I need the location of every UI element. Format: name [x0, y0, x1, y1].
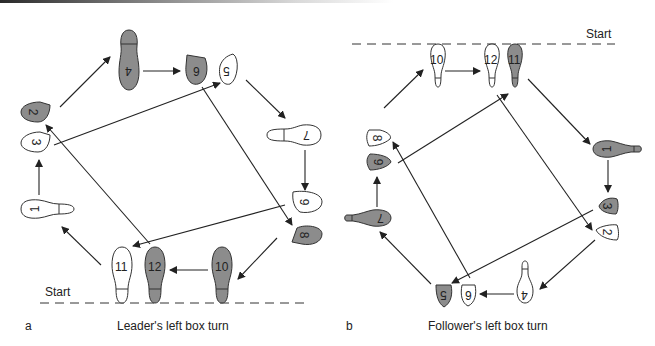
- step-b-12: 12: [484, 53, 497, 67]
- step-b-9: 9: [371, 159, 385, 166]
- step-a-7: 7: [303, 128, 310, 142]
- step-a-3: 3: [29, 139, 43, 146]
- box-turn-diagram: [0, 0, 655, 346]
- start-label-b: Start: [586, 27, 611, 41]
- step-a-6: 6: [193, 64, 200, 78]
- panel-a: [21, 30, 322, 303]
- caption-b: Follower's left box turn: [428, 319, 548, 333]
- step-b-7: 7: [377, 211, 384, 225]
- step-a-5: 5: [223, 64, 230, 78]
- step-b-6: 6: [465, 288, 472, 302]
- step-a-1: 1: [28, 206, 42, 213]
- step-a-10: 10: [215, 260, 228, 274]
- step-b-5: 5: [440, 288, 447, 302]
- step-a-11: 11: [115, 260, 127, 274]
- caption-a: Leader's left box turn: [117, 319, 229, 333]
- step-b-10: 10: [430, 53, 443, 67]
- step-b-11: 11: [508, 53, 520, 67]
- step-a-4: 4: [125, 64, 132, 78]
- step-b-3: 3: [600, 203, 614, 210]
- step-b-1: 1: [600, 146, 614, 153]
- step-b-8: 8: [370, 135, 384, 142]
- panel-b: [345, 44, 642, 307]
- step-a-12: 12: [148, 260, 161, 274]
- start-label-a: Start: [45, 285, 70, 299]
- panel-letter-a: a: [25, 319, 32, 333]
- panel-letter-b: b: [346, 319, 353, 333]
- step-a-2: 2: [26, 109, 40, 116]
- step-a-9: 9: [297, 199, 311, 206]
- step-b-2: 2: [600, 229, 614, 236]
- step-b-4: 4: [521, 288, 528, 302]
- step-a-8: 8: [297, 232, 311, 239]
